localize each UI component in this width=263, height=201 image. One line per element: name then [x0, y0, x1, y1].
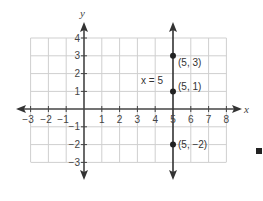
x-axis-label: x: [243, 103, 249, 115]
point-5-1: [170, 88, 176, 94]
end-marker: [256, 148, 262, 154]
svg-text:−2: −2: [69, 139, 81, 150]
svg-text:6: 6: [188, 114, 194, 125]
svg-text:4: 4: [74, 33, 80, 44]
svg-text:−1: −1: [69, 121, 81, 132]
svg-text:−3: −3: [69, 157, 81, 168]
svg-text:2: 2: [117, 114, 123, 125]
y-axis-label: y: [79, 7, 85, 19]
point-label-5-3: (5, 3): [178, 57, 201, 68]
svg-text:3: 3: [74, 50, 80, 61]
point-5-neg2: [170, 142, 176, 148]
svg-text:5: 5: [170, 114, 176, 125]
svg-text:4: 4: [152, 114, 158, 125]
point-label-5-neg2: (5, −2): [178, 139, 207, 150]
svg-text:3: 3: [135, 114, 141, 125]
equation-label: x = 5: [141, 75, 163, 86]
svg-text:1: 1: [74, 86, 80, 97]
x-tick-labels: −3 −2 −1 1 2 3 4 5 6 7 8: [22, 114, 229, 125]
y-axis: [80, 22, 88, 180]
vertical-line-x5: [169, 22, 177, 180]
svg-text:−1: −1: [57, 114, 69, 125]
svg-text:7: 7: [206, 114, 212, 125]
y-tick-labels: 4 3 2 1 −1 −2 −3: [69, 33, 81, 168]
coordinate-plane: −3 −2 −1 1 2 3 4 5 6 7 8 4 3 2 1 −1 −2 −…: [0, 0, 263, 201]
point-label-5-1: (5, 1): [178, 81, 201, 92]
points: (5, 3) (5, 1) (5, −2): [170, 53, 207, 150]
svg-text:1: 1: [99, 114, 105, 125]
svg-text:−3: −3: [22, 114, 34, 125]
svg-text:8: 8: [224, 114, 230, 125]
svg-text:−2: −2: [40, 114, 52, 125]
point-5-3: [170, 53, 176, 59]
svg-text:2: 2: [74, 68, 80, 79]
